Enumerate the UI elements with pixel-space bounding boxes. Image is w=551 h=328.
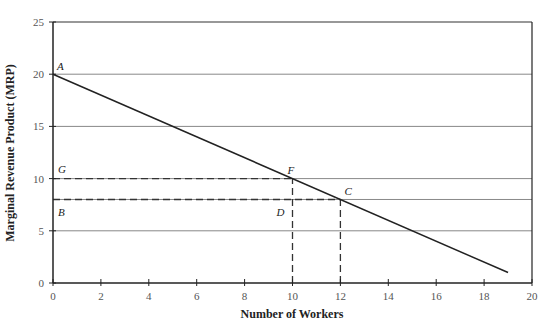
tick-labels: 024681012141618200510152025 xyxy=(33,16,538,302)
point-label-d: D xyxy=(276,206,285,218)
x-tick-label: 4 xyxy=(146,290,152,302)
x-tick-label: 16 xyxy=(431,290,443,302)
y-axis-label: Marginal Revenue Product (MRP) xyxy=(3,64,17,241)
point-label-c: C xyxy=(344,185,352,197)
y-tick-label: 15 xyxy=(33,120,45,132)
point-label-f: F xyxy=(287,164,295,176)
point-label-a: A xyxy=(56,60,64,72)
x-axis-label: Number of Workers xyxy=(241,307,344,321)
y-tick-label: 20 xyxy=(33,68,45,80)
x-tick-label: 14 xyxy=(383,290,395,302)
x-tick-label: 10 xyxy=(287,290,299,302)
y-tick-label: 5 xyxy=(39,225,45,237)
data-series xyxy=(53,74,508,272)
x-tick-label: 6 xyxy=(194,290,200,302)
mrp-chart: 024681012141618200510152025 AGBFCD Numbe… xyxy=(0,0,551,328)
point-label-g: G xyxy=(58,163,66,175)
x-tick-label: 18 xyxy=(479,290,491,302)
x-tick-label: 20 xyxy=(527,290,539,302)
axes xyxy=(49,22,532,286)
y-tick-label: 10 xyxy=(33,173,45,185)
x-tick-label: 8 xyxy=(242,290,248,302)
point-label-b: B xyxy=(58,206,65,218)
y-tick-label: 0 xyxy=(39,277,45,289)
x-tick-label: 12 xyxy=(335,290,346,302)
y-tick-label: 25 xyxy=(33,16,45,28)
mrp-line xyxy=(53,74,508,272)
x-tick-label: 0 xyxy=(50,290,56,302)
x-tick-label: 2 xyxy=(98,290,104,302)
